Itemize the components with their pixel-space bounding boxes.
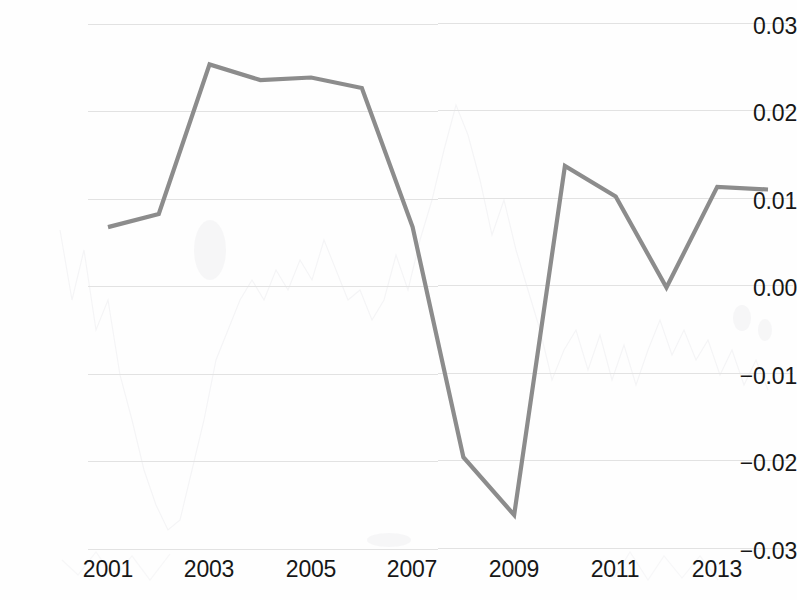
gridline-0.00 bbox=[88, 285, 793, 287]
ytick-label-0: 0.03 bbox=[719, 13, 797, 40]
xtick-label-3: 2007 bbox=[377, 556, 447, 583]
gridlines bbox=[88, 23, 793, 550]
xtick-label-1: 2003 bbox=[174, 556, 244, 583]
chart-figure: 0.03 0.02 0.01 0.00 −0.01 −0.02 −0.03 20… bbox=[0, 0, 797, 600]
xtick-label-0: 2001 bbox=[73, 556, 143, 583]
gridline-0.01 bbox=[88, 198, 793, 200]
xtick-label-2: 2005 bbox=[276, 556, 346, 583]
ytick-label-1: 0.02 bbox=[719, 100, 797, 127]
gridline--0.02 bbox=[88, 460, 793, 462]
ytick-label-3: 0.00 bbox=[719, 275, 797, 302]
xtick-label-6: 2013 bbox=[682, 556, 752, 583]
gridline--0.01 bbox=[88, 373, 793, 375]
gridline--0.03 bbox=[88, 548, 793, 550]
ytick-label-5: −0.02 bbox=[719, 450, 797, 477]
plot-canvas bbox=[0, 0, 797, 600]
xtick-label-4: 2009 bbox=[479, 556, 549, 583]
gridline-0.03 bbox=[88, 23, 793, 25]
ytick-label-4: −0.01 bbox=[719, 363, 797, 390]
xtick-label-5: 2011 bbox=[580, 556, 650, 583]
ytick-label-2: 0.01 bbox=[719, 188, 797, 215]
data-line-series-1 bbox=[108, 64, 768, 515]
